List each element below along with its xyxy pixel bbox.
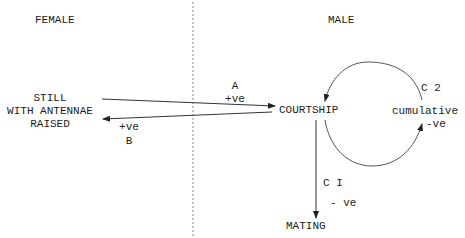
- mating-node: MATING: [286, 220, 326, 233]
- courtship-node: COURTSHIP: [279, 104, 338, 117]
- edge-b-label: B: [112, 135, 146, 148]
- female-state-line2: WITH ANTENNAE: [0, 105, 100, 118]
- edge-c2-label: C 2: [421, 82, 441, 95]
- edge-c2-sign: -ve: [426, 118, 446, 131]
- female-state-line1: STILL: [0, 92, 100, 105]
- female-region-label: FEMALE: [35, 14, 75, 27]
- arrow-c2-lower-arc: [325, 120, 422, 166]
- arrow-c2-upper-arc: [325, 62, 422, 101]
- edge-b-sign: +ve: [112, 121, 146, 134]
- female-state-line3: RAISED: [0, 118, 100, 131]
- edge-c2-qualifier: cumulative: [392, 105, 458, 118]
- edge-a-sign: +ve: [220, 93, 250, 106]
- edge-c1-sign: - ve: [330, 197, 356, 210]
- arrow-b: [103, 112, 272, 119]
- edge-a-label: A: [220, 80, 250, 93]
- edge-c1-label: C I: [323, 177, 343, 190]
- male-region-label: MALE: [328, 14, 354, 27]
